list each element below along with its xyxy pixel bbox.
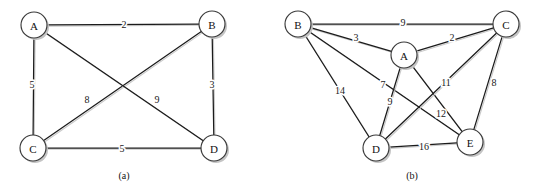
- edge-weight-a-c: 2: [450, 32, 455, 43]
- edge-shadow: [312, 29, 393, 53]
- graph-canvas: ABCDBCADE 225533558899993322141477991111…: [0, 0, 547, 194]
- edge-weight-d-e: 16: [419, 141, 429, 152]
- node-label-d: D: [372, 143, 380, 155]
- edge-weight-b-c: 9: [401, 17, 406, 28]
- edge-weight-c-e: 8: [492, 77, 497, 88]
- edge-weight-a-e: 11: [441, 77, 451, 88]
- edge-weight-c-d: 12: [436, 108, 446, 119]
- graph-caption-graph-a: (a): [118, 170, 129, 182]
- node-label-c: C: [29, 143, 36, 155]
- node-label-a: A: [400, 50, 408, 62]
- node-label-b: B: [208, 19, 215, 31]
- edge-weight-a-d: 9: [155, 94, 160, 105]
- edge-shadow: [418, 29, 495, 52]
- edge-weight-a-b: 2: [122, 19, 127, 30]
- edge-weight-c-b: 8: [85, 94, 90, 105]
- edge-weight-a-d: 9: [388, 96, 393, 107]
- graph-edge-b-a[interactable]: [310, 28, 391, 52]
- graph-caption-graph-b: (b): [406, 170, 418, 182]
- edge-weight-b-d: 14: [335, 85, 345, 96]
- edge-weight-b-d: 3: [210, 79, 215, 90]
- edge-weight-b-e: 7: [381, 79, 386, 90]
- node-label-a: A: [30, 20, 38, 32]
- figure-container: ABCDBCADE 225533558899993322141477991111…: [0, 0, 547, 194]
- node-label-e: E: [467, 137, 474, 149]
- edges-layer: [33, 24, 503, 149]
- edge-weight-a-c: 5: [30, 79, 35, 90]
- edge-weight-c-d: 5: [120, 143, 125, 154]
- node-label-c: C: [502, 19, 509, 31]
- captions-layer: (a)(b): [118, 170, 417, 182]
- node-label-b: B: [294, 19, 301, 31]
- node-label-d: D: [210, 143, 218, 155]
- edge-weight-b-a: 3: [354, 32, 359, 43]
